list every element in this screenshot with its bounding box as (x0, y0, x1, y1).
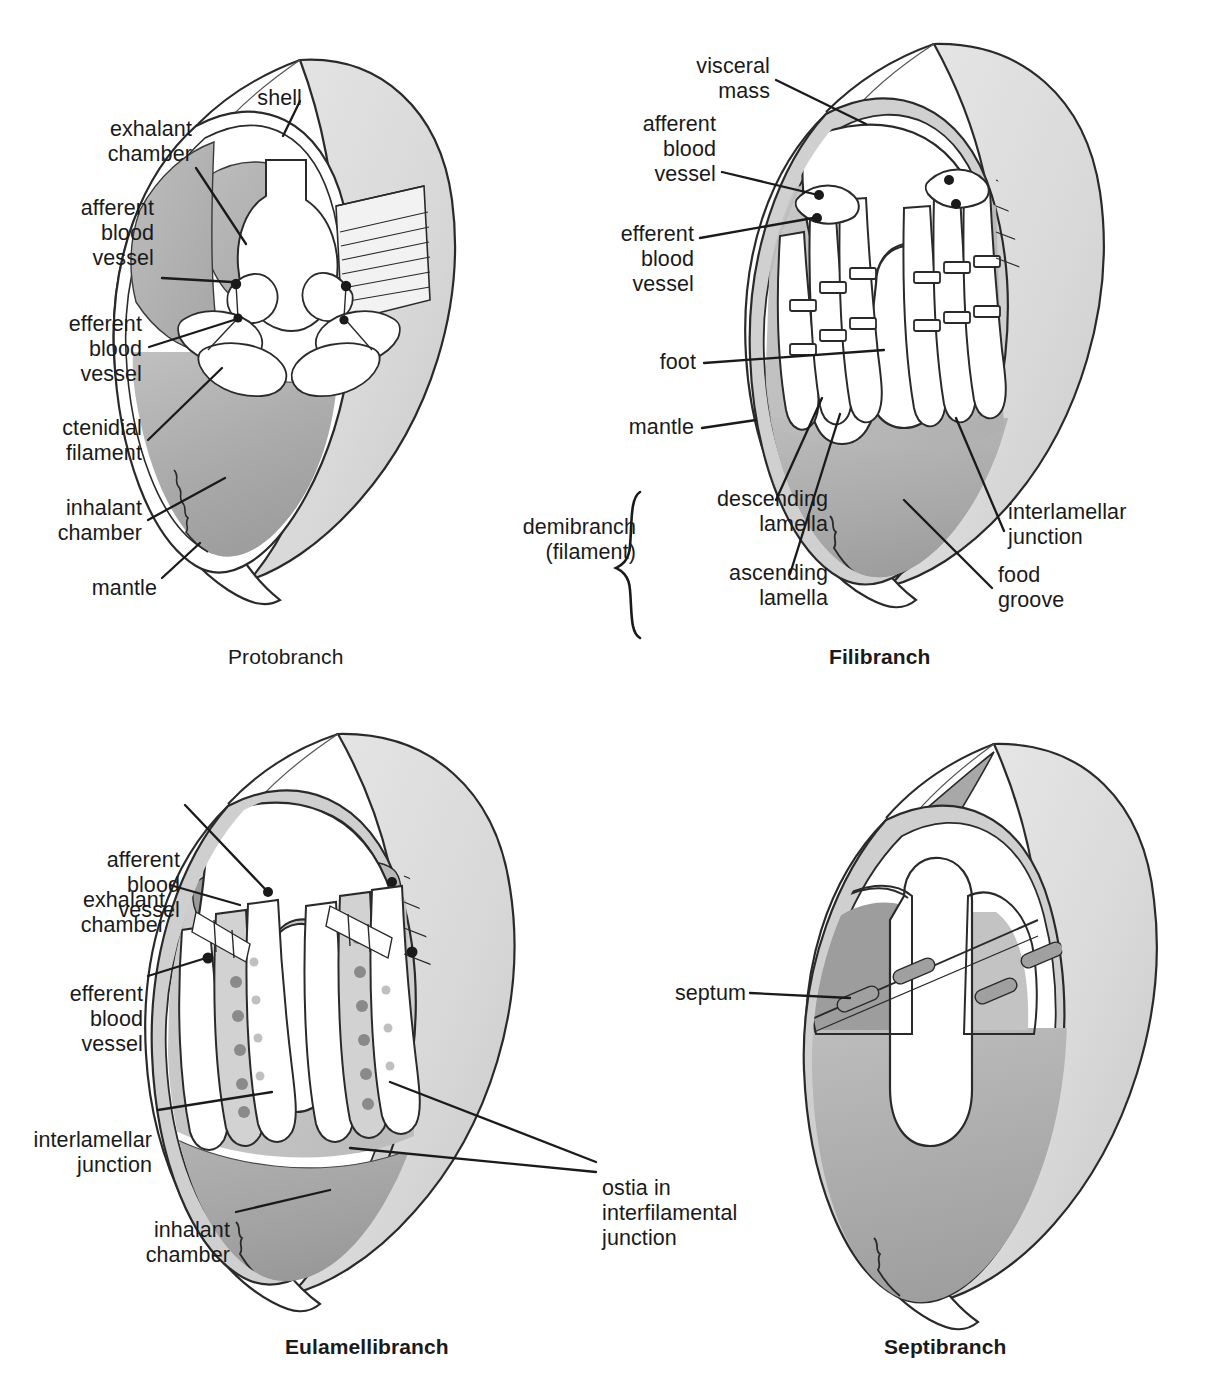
label-ascending-lamella: ascending lamella (648, 561, 828, 611)
demibranch-bracket (616, 492, 640, 638)
panel-protobranch: shell exhalant chamber afferent blood ve… (0, 0, 604, 700)
panel-filibranch: visceral mass afferent blood vessel effe… (604, 0, 1209, 700)
figure-page: shell exhalant chamber afferent blood ve… (0, 0, 1209, 1396)
afferent-vessel-node (814, 190, 824, 200)
label-food-groove: food groove (998, 563, 1118, 613)
panel-septibranch: septum Septibranch (604, 700, 1209, 1396)
caption-septibranch: Septibranch (884, 1335, 1006, 1359)
caption-protobranch: Protobranch (228, 645, 344, 669)
label-afferent-blood-vessel: afferent blood vessel (604, 112, 716, 187)
label-efferent-blood-vessel: efferent blood vessel (2, 312, 142, 387)
label-exhalant-chamber: exhalant chamber (0, 888, 165, 938)
label-visceral-mass: visceral mass (604, 54, 770, 104)
label-mantle: mantle (604, 415, 694, 440)
label-interlamellar-junction: interlamellar junction (0, 1128, 152, 1178)
leader-mantle (702, 420, 756, 428)
panel-eulamellibranch: afferent blood vessel exhalant chamber e… (0, 700, 604, 1396)
label-inhalant-chamber: inhalant chamber (0, 1218, 230, 1268)
efferent-vessel-node (233, 313, 242, 322)
afferent-vessel-node (231, 279, 241, 289)
label-demibranch: demibranch (filament) (452, 515, 636, 565)
caption-eulamellibranch: Eulamellibranch (285, 1335, 449, 1359)
label-mantle: mantle (2, 576, 157, 601)
label-afferent-blood-vessel: afferent blood vessel (2, 196, 154, 271)
label-ctenidial-filament: ctenidial filament (2, 416, 142, 466)
septibranch-drawing (604, 700, 1209, 1396)
label-interlamellar-junction: interlamellar junction (1008, 500, 1208, 550)
label-descending-lamella: descending lamella (648, 487, 828, 537)
label-inhalant-chamber: inhalant chamber (2, 496, 142, 546)
label-shell: shell (158, 86, 302, 111)
label-ostia-in-interfilamental-junction: ostia in interfilamental junction (602, 1176, 842, 1251)
label-septum: septum (604, 981, 746, 1006)
label-efferent-blood-vessel: efferent blood vessel (604, 222, 694, 297)
filibranch-left-demibranch (778, 198, 882, 430)
caption-filibranch: Filibranch (829, 645, 930, 669)
label-foot: foot (604, 350, 696, 375)
label-efferent-blood-vessel: efferent blood vessel (0, 982, 143, 1057)
label-exhalant-chamber: exhalant chamber (24, 117, 192, 167)
